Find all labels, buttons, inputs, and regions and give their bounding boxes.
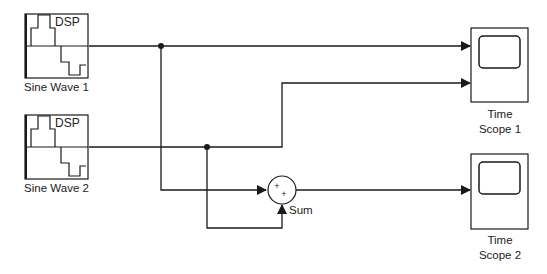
sine-wave-2-label: Sine Wave 2 xyxy=(4,181,109,196)
simulink-diagram-canvas: + + DSP DSP Sine Wave 1 Sine Wave 2 Sum … xyxy=(0,0,547,274)
sine-wave-1-label: Sine Wave 1 xyxy=(4,80,109,95)
time-scope-1-block[interactable] xyxy=(471,28,528,102)
dsp-icon-text-1: DSP xyxy=(55,15,80,30)
time-scope-2-label-line2: Scope 2 xyxy=(465,248,535,263)
wire-sine2-to-scope1 xyxy=(89,83,470,147)
diagram-wires: + + xyxy=(0,0,547,274)
branch-point-1 xyxy=(158,43,164,49)
sum-block[interactable]: + + xyxy=(268,176,296,204)
dsp-icon-text-2: DSP xyxy=(55,116,80,131)
wire-sine1-to-sum xyxy=(161,46,266,190)
time-scope-1-label-line2: Scope 1 xyxy=(465,122,535,137)
svg-text:+: + xyxy=(274,181,279,191)
sum-label: Sum xyxy=(289,203,313,218)
time-scope-2-block[interactable] xyxy=(471,154,528,229)
branch-point-2 xyxy=(204,144,210,150)
svg-text:+: + xyxy=(281,189,286,199)
time-scope-2-label-line1: Time xyxy=(470,233,530,248)
time-scope-1-label-line1: Time xyxy=(470,107,530,122)
